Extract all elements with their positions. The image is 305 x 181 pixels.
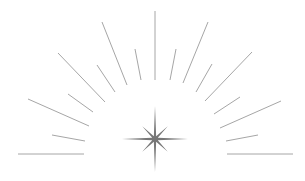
ray-line bbox=[170, 49, 176, 80]
ray-line bbox=[183, 22, 208, 83]
ray-line bbox=[214, 97, 240, 114]
ray-line bbox=[226, 135, 258, 141]
ray-line bbox=[205, 52, 252, 101]
ray-line bbox=[52, 135, 85, 141]
starburst-graphic bbox=[0, 0, 305, 181]
ray-line bbox=[135, 49, 141, 80]
ray-line bbox=[58, 53, 105, 102]
four-point-star-icon bbox=[122, 106, 188, 172]
ray-line bbox=[97, 65, 115, 92]
ray-line bbox=[196, 64, 212, 92]
ray-line bbox=[102, 22, 127, 85]
starburst-illustration bbox=[0, 0, 305, 181]
ray-line bbox=[220, 101, 281, 128]
ray-line bbox=[68, 94, 93, 112]
